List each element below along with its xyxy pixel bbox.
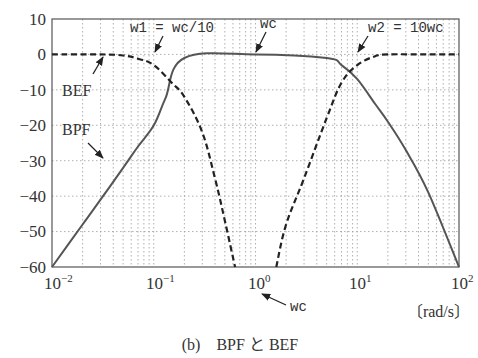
- annotation-wc-top: wc: [260, 16, 277, 32]
- annotation-wc-bottom: wc: [290, 299, 307, 315]
- x-axis-labels: 10−2 10−1 100 101 102: [44, 272, 474, 293]
- annotations: w1 = wc/10 wc w2 = 10wc wc BEF BPF: [62, 16, 444, 315]
- bode-chart: 10 0 −10 −20 −30 −40 −50 −60 10−2 10−1 1…: [0, 0, 478, 358]
- arrow-wc-top: [256, 32, 266, 52]
- y-tick-minus50: −50: [19, 222, 46, 241]
- y-tick-minus30: −30: [19, 152, 46, 171]
- annotation-w2: w2 = 10wc: [368, 20, 444, 36]
- arrow-w1: [155, 36, 163, 52]
- y-axis-labels: 10 0 −10 −20 −30 −40 −50 −60: [19, 10, 46, 277]
- arrow-w2: [358, 36, 368, 52]
- x-tick-1e-1: 10−1: [146, 272, 175, 293]
- x-axis-unit: 〔rad/s〕: [407, 303, 470, 320]
- y-tick-0: 0: [38, 45, 47, 64]
- x-tick-1e-2: 10−2: [44, 272, 73, 293]
- y-tick-minus10: −10: [19, 81, 46, 100]
- grid: [52, 19, 459, 267]
- annotation-w1: w1 = wc/10: [130, 20, 214, 36]
- x-tick-1e1: 101: [349, 272, 372, 293]
- label-bpf: BPF: [62, 121, 91, 138]
- y-tick-minus60: −60: [19, 258, 46, 277]
- arrow-wc-bottom: [262, 294, 286, 305]
- y-tick-10: 10: [29, 10, 46, 29]
- y-tick-minus40: −40: [19, 187, 46, 206]
- x-tick-1e2: 102: [451, 272, 474, 293]
- x-tick-1e0: 100: [248, 272, 271, 293]
- y-tick-minus20: −20: [19, 116, 46, 135]
- arrow-bef: [93, 57, 103, 74]
- figure-caption: (b) BPF と BEF: [182, 336, 299, 354]
- label-bef: BEF: [62, 82, 91, 99]
- arrow-bpf: [88, 143, 103, 158]
